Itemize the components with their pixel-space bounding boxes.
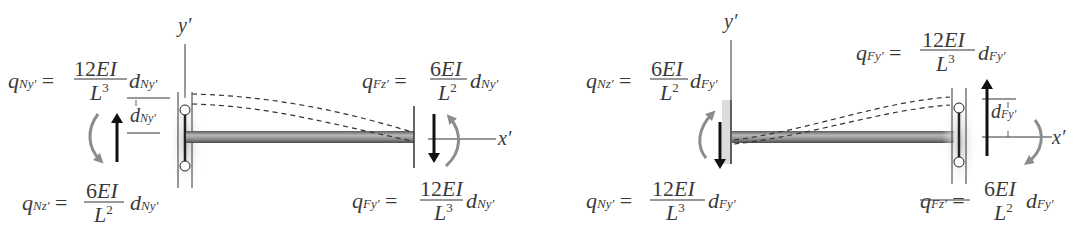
- left-y-axis-label: y′: [178, 14, 191, 37]
- eq-right-qFz-num: 6EI: [984, 176, 1016, 202]
- eq-right-qNz-num: 6EI: [651, 56, 683, 82]
- eq-left-qFy-rhs: dNy′: [466, 188, 494, 214]
- eq-left-qNz-den: L2: [94, 202, 113, 228]
- fraction-bars: [74, 50, 975, 202]
- eq-right-qFy-rhs: dFy′: [978, 40, 1006, 66]
- beam: [186, 131, 414, 143]
- eq-right-qNy-num: 12EI: [652, 176, 695, 202]
- beam-stiffness-figure: [0, 0, 1078, 231]
- eq-left-qFy-lhs: qFy′ =: [352, 188, 397, 214]
- eq-right-qFy-lhs: qFy′ =: [856, 40, 901, 66]
- right-y-axis-label: y′: [724, 10, 737, 33]
- eq-left-qNz-num: 6EI: [86, 178, 118, 204]
- eq-left-qNy-num: 12EI: [74, 56, 117, 82]
- eq-right-qNy-rhs: dFy′: [708, 188, 736, 214]
- eq-left-qFz-den: L2: [438, 80, 457, 106]
- eq-left-qNz-rhs: dNy′: [130, 190, 158, 216]
- eq-left-qFz-num: 6EI: [430, 56, 462, 82]
- roller-top: [954, 103, 964, 113]
- eq-right-qFy-num: 12EI: [922, 27, 965, 53]
- deflected-shape-top: [192, 94, 412, 132]
- eq-right-qNy-den: L3: [666, 200, 685, 226]
- eq-left-qFz-lhs: qFz′ =: [362, 68, 407, 94]
- eq-right-qNy-lhs: qNy′ =: [586, 188, 632, 214]
- eq-right-qFz-lhs: qFz′ =: [920, 188, 965, 214]
- eq-left-qNy-lhs: qNy′ =: [8, 68, 54, 94]
- eq-left-qFz-rhs: dNy′: [470, 68, 498, 94]
- eq-right-qNz-lhs: qNz′ =: [586, 68, 632, 94]
- eq-right-qFz-rhs: dFy′: [1026, 188, 1054, 214]
- eq-right-qNz-rhs: dFy′: [690, 68, 718, 94]
- eq-left-qNy-rhs: dNy′: [129, 68, 157, 94]
- moment-arrow-icon: [446, 118, 459, 166]
- beam: [732, 131, 954, 143]
- eq-left-qNy-den: L3: [90, 80, 109, 106]
- right-x-axis-label: x′: [1052, 126, 1065, 149]
- eq-right-qFz-den: L2: [994, 200, 1013, 226]
- moment-arrow-cw-icon: [1028, 120, 1041, 162]
- eq-left-qFy-num: 12EI: [420, 176, 463, 202]
- roller-bottom: [180, 161, 190, 171]
- eq-right-qFy-den: L3: [936, 51, 955, 77]
- eq-left-qFy-den: L3: [434, 200, 453, 226]
- eq-right-qNz-den: L2: [660, 80, 679, 106]
- eq-left-qNz-lhs: qNz′ =: [22, 190, 68, 216]
- left-x-axis-label: x′: [498, 127, 511, 150]
- moment-arrow-ccw-icon: [700, 114, 712, 158]
- moment-arrow-ccw-icon: [90, 114, 100, 160]
- left-displacement-label: dNy′: [130, 104, 156, 127]
- roller-bottom: [954, 157, 964, 167]
- right-displacement-label: dFy′: [991, 100, 1016, 123]
- roller-top: [180, 105, 190, 115]
